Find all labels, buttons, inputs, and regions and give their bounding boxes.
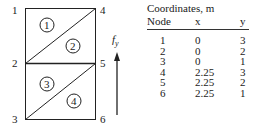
table-row: 6 2.25 1 — [147, 88, 249, 99]
element-label-3: 3 — [44, 79, 50, 90]
force-arrow-head-icon — [114, 52, 120, 61]
header-x: x — [195, 16, 201, 27]
table-header-row: Node x y — [147, 16, 249, 28]
force-label: fy — [112, 34, 119, 49]
node-label-3: 3 — [12, 114, 18, 125]
header-node: Node — [147, 16, 171, 27]
element-label-1: 1 — [44, 20, 50, 31]
diagonal-lower — [26, 64, 96, 120]
cell-x: 2.25 — [195, 88, 214, 99]
diagonal-upper — [26, 9, 96, 64]
cell-node: 6 — [160, 88, 166, 99]
force-subscript: y — [115, 39, 119, 48]
node-label-5: 5 — [100, 58, 106, 69]
element-label-4: 4 — [71, 96, 77, 107]
node-label-6: 6 — [100, 114, 106, 125]
header-rule — [147, 29, 249, 30]
cell-y: 1 — [240, 88, 246, 99]
element-label-2: 2 — [70, 41, 76, 52]
node-label-1: 1 — [12, 5, 18, 16]
header-y: y — [240, 16, 246, 27]
node-label-2: 2 — [12, 58, 18, 69]
finite-element-mesh — [0, 0, 140, 130]
node-label-4: 4 — [100, 5, 106, 16]
table-title: Coordinates, m — [147, 2, 214, 14]
